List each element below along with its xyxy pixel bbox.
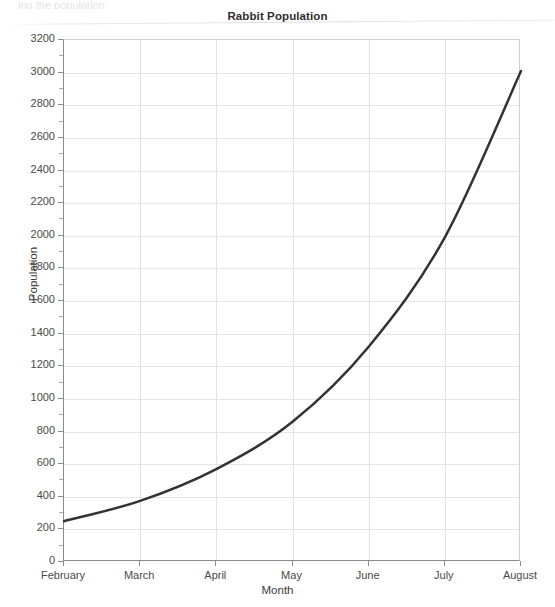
y-axis-minor-tick	[59, 88, 63, 89]
y-axis-tick	[58, 267, 63, 268]
y-axis-tick	[58, 39, 63, 40]
y-axis-tick	[58, 72, 63, 73]
x-axis-tick	[215, 561, 216, 566]
y-axis-minor-tick	[59, 349, 63, 350]
x-axis-tick-label: August	[470, 569, 555, 581]
y-axis-tick-label: 2800	[31, 97, 55, 109]
y-axis-tick	[58, 170, 63, 171]
y-axis-minor-tick	[59, 447, 63, 448]
y-axis-tick-label: 800	[37, 424, 55, 436]
y-axis-minor-tick	[59, 251, 63, 252]
y-axis-minor-tick	[59, 316, 63, 317]
y-axis-tick-label: 1400	[31, 326, 55, 338]
y-axis-tick	[58, 431, 63, 432]
y-axis-tick-label: 200	[37, 521, 55, 533]
y-axis-minor-tick	[59, 414, 63, 415]
y-axis-tick	[58, 398, 63, 399]
y-axis-tick	[58, 333, 63, 334]
y-axis-tick-label: 2600	[31, 130, 55, 142]
chart-page: ing the population Rabbit Population Mon…	[0, 0, 555, 607]
y-axis-tick-label: 1200	[31, 358, 55, 370]
y-axis-minor-tick	[59, 545, 63, 546]
y-axis-minor-tick	[59, 153, 63, 154]
y-axis-minor-tick	[59, 186, 63, 187]
y-axis-tick-label: 600	[37, 456, 55, 468]
y-axis-tick-label: 1000	[31, 391, 55, 403]
chart-title: Rabbit Population	[0, 10, 555, 22]
y-axis-tick	[58, 137, 63, 138]
y-axis-tick	[58, 202, 63, 203]
x-axis-tick	[444, 561, 445, 566]
y-axis-minor-tick	[59, 218, 63, 219]
series-line-rabbit-population	[64, 40, 521, 562]
y-axis-tick-label: 400	[37, 489, 55, 501]
x-axis-tick	[139, 561, 140, 566]
y-axis-tick	[58, 300, 63, 301]
x-axis-tick	[63, 561, 64, 566]
plot-area	[63, 39, 520, 561]
y-axis-minor-tick	[59, 382, 63, 383]
y-axis-tick-label: 2000	[31, 228, 55, 240]
y-axis-tick	[58, 235, 63, 236]
x-axis-tick	[520, 561, 521, 566]
y-axis-minor-tick	[59, 512, 63, 513]
series-path	[64, 71, 521, 521]
y-axis-tick	[58, 104, 63, 105]
y-axis-tick-label: 3000	[31, 65, 55, 77]
x-axis-title: Month	[0, 584, 555, 596]
y-axis-minor-tick	[59, 284, 63, 285]
y-axis-tick	[58, 365, 63, 366]
y-axis-minor-tick	[59, 121, 63, 122]
y-axis-minor-tick	[59, 55, 63, 56]
y-axis-tick-label: 2200	[31, 195, 55, 207]
y-axis-tick-label: 1600	[31, 293, 55, 305]
y-axis-tick-label: 0	[49, 554, 55, 566]
x-axis-tick	[292, 561, 293, 566]
y-axis-tick	[58, 528, 63, 529]
x-axis-tick	[368, 561, 369, 566]
y-axis-minor-tick	[59, 479, 63, 480]
y-axis-tick-label: 3200	[31, 32, 55, 44]
y-axis-tick	[58, 463, 63, 464]
y-axis-tick-label: 1800	[31, 260, 55, 272]
clipped-header-text: ing the population	[18, 0, 318, 9]
y-axis-tick	[58, 496, 63, 497]
y-axis-tick-label: 2400	[31, 163, 55, 175]
